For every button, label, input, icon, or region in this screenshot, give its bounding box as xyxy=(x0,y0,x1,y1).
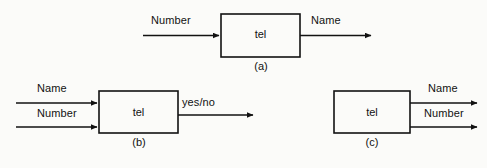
diagram-b-output-label-yesno: yes/no xyxy=(182,96,215,108)
diagram-b-caption: (b) xyxy=(108,136,170,148)
diagram-b-box-label: tel xyxy=(99,106,178,118)
diagram-vector-layer xyxy=(0,0,487,168)
diagram-c-box-label: tel xyxy=(334,106,410,118)
figure-canvas: Number tel Name (a) Name Number tel yes/… xyxy=(0,0,487,168)
diagram-c-output-label-name: Name xyxy=(428,82,458,94)
diagram-a-output-label-name: Name xyxy=(311,14,341,26)
diagram-a-input-label-number: Number xyxy=(151,14,191,26)
diagram-a-box-label: tel xyxy=(221,28,300,40)
diagram-a-caption: (a) xyxy=(230,60,292,72)
diagram-c-output-label-number: Number xyxy=(424,107,464,119)
diagram-c-caption: (c) xyxy=(341,136,403,148)
diagram-b-input-label-number: Number xyxy=(37,107,77,119)
diagram-b-input-label-name: Name xyxy=(37,82,67,94)
